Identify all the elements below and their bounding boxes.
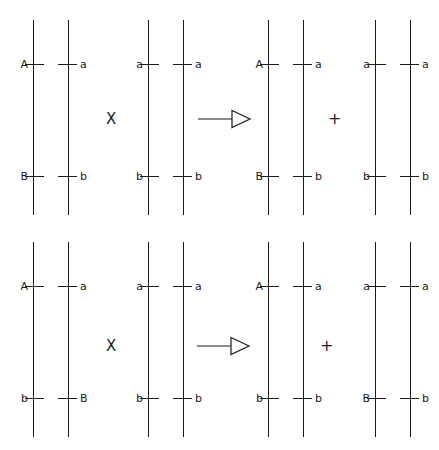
locus-tick-lower-right [173, 176, 192, 177]
chromosome-strand-left [148, 242, 149, 437]
locus-tick-upper-right [400, 64, 419, 65]
chromosome-panel: a a b b [364, 0, 428, 225]
allele-label-upper-left: a [363, 281, 370, 292]
chromosome-strand-right [303, 20, 304, 215]
allele-label-upper-right: a [315, 59, 322, 70]
locus-tick-upper-right [58, 64, 77, 65]
allele-label-lower-right: b [315, 171, 322, 182]
allele-label-upper-left: A [255, 59, 263, 70]
chromosome-strand-right [183, 20, 184, 215]
chromosome-panel: a a B b [364, 222, 428, 447]
chromosome-strand-right [68, 20, 69, 215]
allele-label-upper-right: a [80, 281, 87, 292]
allele-label-lower-right: b [315, 393, 322, 404]
allele-label-upper-left: A [255, 281, 263, 292]
chromosome-panel: a a b b [137, 222, 201, 447]
allele-label-lower-right: b [80, 171, 87, 182]
locus-tick-lower-right [293, 176, 312, 177]
chromosome-panel: A a b B [22, 222, 86, 447]
allele-label-lower-left: b [363, 171, 370, 182]
locus-tick-upper-right [173, 286, 192, 287]
allele-label-lower-left: B [255, 171, 263, 182]
allele-label-lower-left: b [136, 393, 143, 404]
locus-tick-upper-right [293, 64, 312, 65]
cross-operator: X [106, 112, 116, 126]
locus-tick-lower-right [400, 176, 419, 177]
locus-tick-upper-right [58, 286, 77, 287]
chromosome-strand-left [268, 20, 269, 215]
chromosome-strand-left [375, 242, 376, 437]
allele-label-upper-right: a [422, 281, 429, 292]
chromosome-strand-left [148, 20, 149, 215]
locus-tick-lower-right [58, 398, 77, 399]
allele-label-upper-right: a [195, 281, 202, 292]
allele-label-lower-right: b [422, 393, 429, 404]
plus-operator: + [328, 112, 341, 126]
diagram-canvas: A a B b X a a b b [0, 0, 439, 450]
chromosome-panel: A a B b [22, 0, 86, 225]
locus-tick-lower-right [400, 398, 419, 399]
allele-label-lower-left: B [362, 393, 370, 404]
allele-label-lower-left: b [136, 171, 143, 182]
allele-label-upper-right: a [195, 59, 202, 70]
locus-tick-upper-right [173, 64, 192, 65]
chromosome-panel: A a b b [257, 222, 321, 447]
locus-tick-lower-right [293, 398, 312, 399]
allele-label-lower-right: b [422, 171, 429, 182]
locus-tick-upper-right [293, 286, 312, 287]
allele-label-upper-left: A [20, 59, 28, 70]
allele-label-lower-left: b [21, 393, 28, 404]
allele-label-lower-right: b [195, 171, 202, 182]
cross-operator: X [106, 339, 116, 353]
chromosome-strand-left [33, 20, 34, 215]
allele-label-upper-right: a [80, 59, 87, 70]
allele-label-lower-left: b [256, 393, 263, 404]
chromosome-strand-left [375, 20, 376, 215]
allele-label-lower-right: b [195, 393, 202, 404]
locus-tick-upper-right [400, 286, 419, 287]
chromosome-strand-right [303, 242, 304, 437]
allele-label-lower-right: B [80, 393, 88, 404]
chromosome-strand-right [410, 242, 411, 437]
chromosome-strand-left [33, 242, 34, 437]
arrow-right-hollow-icon [197, 335, 253, 357]
chromosome-panel: a a b b [137, 0, 201, 225]
chromosome-strand-right [410, 20, 411, 215]
chromosome-panel: A a B b [257, 0, 321, 225]
chromosome-strand-right [68, 242, 69, 437]
allele-label-lower-left: B [20, 171, 28, 182]
chromosome-strand-left [268, 242, 269, 437]
chromosome-strand-right [183, 242, 184, 437]
allele-label-upper-right: a [315, 281, 322, 292]
plus-operator: + [320, 339, 333, 353]
allele-label-upper-left: A [20, 281, 28, 292]
allele-label-upper-left: a [363, 59, 370, 70]
arrow-right-hollow-icon [198, 108, 254, 130]
allele-label-upper-left: a [136, 59, 143, 70]
diagram-row-repulsion: A a b B X a a b b [0, 222, 439, 447]
diagram-row-coupling: A a B b X a a b b [0, 0, 439, 225]
locus-tick-lower-right [173, 398, 192, 399]
locus-tick-lower-right [58, 176, 77, 177]
allele-label-upper-right: a [422, 59, 429, 70]
allele-label-upper-left: a [136, 281, 143, 292]
